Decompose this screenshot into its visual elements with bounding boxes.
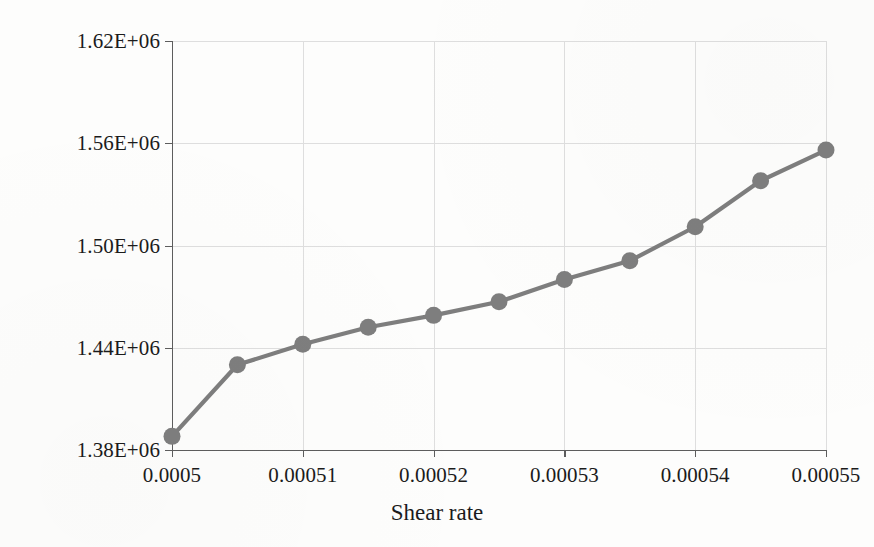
y-tick-label: 1.38E+06 xyxy=(77,438,160,463)
data-point-marker xyxy=(687,218,704,235)
x-tick-label: 0.0005 xyxy=(143,463,201,488)
x-tick-mark xyxy=(564,450,565,457)
data-point-marker xyxy=(164,428,181,445)
x-tick-label: 0.00053 xyxy=(530,463,599,488)
data-point-marker xyxy=(360,319,377,336)
data-point-marker xyxy=(294,336,311,353)
y-tick-label: 1.56E+06 xyxy=(77,131,160,156)
x-tick-label: 0.00054 xyxy=(661,463,730,488)
chart-figure: 1.38E+061.44E+061.50E+061.56E+061.62E+06… xyxy=(0,0,874,547)
data-point-marker xyxy=(425,307,442,324)
data-point-marker xyxy=(229,356,246,373)
y-tick-label: 1.44E+06 xyxy=(77,335,160,360)
data-point-marker xyxy=(818,142,835,159)
y-tick-label: 1.62E+06 xyxy=(77,29,160,54)
x-tick-mark xyxy=(826,450,827,457)
gridline-vertical xyxy=(826,41,827,450)
y-tick-label: 1.50E+06 xyxy=(77,233,160,258)
x-tick-label: 0.00055 xyxy=(792,463,861,488)
x-tick-mark xyxy=(303,450,304,457)
x-tick-mark xyxy=(695,450,696,457)
x-tick-label: 0.00051 xyxy=(268,463,337,488)
data-point-marker xyxy=(556,271,573,288)
y-tick-mark xyxy=(165,348,172,349)
y-tick-mark xyxy=(165,41,172,42)
y-tick-mark xyxy=(165,246,172,247)
series-line xyxy=(172,150,826,436)
series-markers xyxy=(164,142,835,445)
y-tick-mark xyxy=(165,450,172,451)
x-tick-mark xyxy=(434,450,435,457)
plot-area: 1.38E+061.44E+061.50E+061.56E+061.62E+06… xyxy=(172,41,826,450)
x-tick-mark xyxy=(172,450,173,457)
data-point-marker xyxy=(752,172,769,189)
y-tick-mark xyxy=(165,143,172,144)
x-tick-label: 0.00052 xyxy=(399,463,468,488)
data-point-marker xyxy=(491,293,508,310)
x-axis-title: Shear rate xyxy=(0,500,874,526)
data-series xyxy=(172,41,826,450)
x-axis-line xyxy=(172,450,826,451)
data-point-marker xyxy=(621,252,638,269)
